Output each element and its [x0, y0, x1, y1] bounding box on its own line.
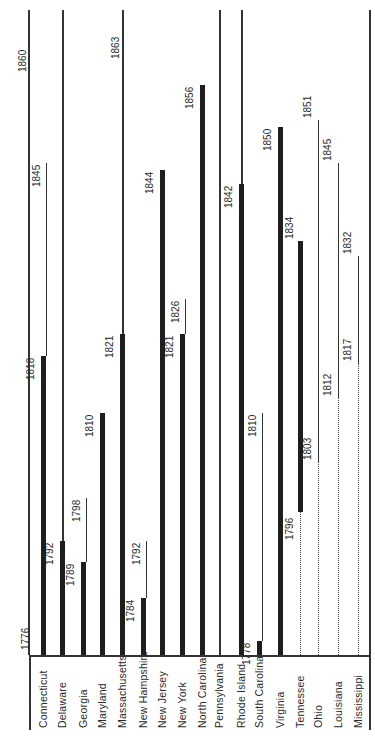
- thin-line: [122, 10, 124, 334]
- state-label: Ohio: [312, 705, 324, 728]
- state-label: Connecticut: [37, 670, 49, 728]
- thick-bar: [60, 541, 65, 655]
- state-label: New Hampshire: [137, 651, 149, 728]
- thin-line: [318, 120, 319, 462]
- thin-line: [219, 10, 221, 655]
- thin-line: [338, 163, 339, 398]
- thick-bar: [257, 641, 262, 655]
- year-label: 1842: [223, 186, 234, 208]
- thin-line: [46, 163, 47, 356]
- dotted-segment: [300, 512, 301, 655]
- year-label: 1812: [322, 374, 333, 396]
- state-label: South Carolina: [253, 656, 265, 728]
- dotted-segment: [358, 363, 359, 655]
- thick-bar: [180, 334, 185, 655]
- dotted-segment: [318, 462, 319, 655]
- baseline-1776: [29, 655, 371, 657]
- timeline-chart: 1776 1860 181818451792178917981810182118…: [0, 0, 375, 744]
- axis-label-end: 1860: [17, 50, 28, 72]
- thick-bar: [141, 598, 146, 655]
- thick-bar: [160, 170, 165, 655]
- state-label: Georgia: [77, 689, 89, 728]
- axis-label-start: 1776: [20, 628, 31, 650]
- state-label: Louisiana: [332, 681, 344, 728]
- state-label: Delaware: [56, 682, 68, 728]
- state-label: Pennsylvania: [213, 663, 225, 728]
- year-label: 1796: [284, 518, 295, 540]
- thick-bar: [81, 562, 86, 655]
- year-label: 1810: [247, 414, 258, 436]
- year-label: 1798: [71, 500, 82, 522]
- year-label: 1817: [342, 338, 353, 360]
- state-label: Massachusetts: [116, 655, 128, 728]
- thin-line: [62, 10, 64, 541]
- year-label: 1821: [164, 336, 175, 358]
- year-label: 1844: [144, 172, 155, 194]
- thick-bar: [298, 241, 303, 512]
- year-label: 1789: [65, 564, 76, 586]
- year-label: 1784: [125, 600, 136, 622]
- year-label: 1778: [241, 642, 252, 664]
- thin-line: [185, 299, 186, 335]
- state-label: Rhode Island: [235, 664, 247, 728]
- year-label: 1845: [31, 165, 42, 187]
- year-label: 1834: [284, 217, 295, 239]
- thick-bar: [100, 413, 105, 655]
- thick-bar: [41, 356, 46, 655]
- thin-line: [241, 10, 243, 184]
- state-label: Maryland: [96, 683, 108, 728]
- line-1860: [28, 10, 30, 655]
- state-label: New York: [176, 682, 188, 728]
- year-label: 1803: [302, 438, 313, 460]
- thick-bar: [278, 127, 283, 655]
- thick-bar: [239, 184, 244, 655]
- thin-line: [262, 413, 263, 641]
- year-label: 1792: [44, 543, 55, 565]
- thin-line: [358, 256, 359, 363]
- year-label: 1832: [342, 231, 353, 253]
- thick-bar: [200, 85, 205, 655]
- year-label: 1856: [184, 86, 195, 108]
- state-label: New Jersey: [156, 671, 168, 728]
- thin-line: [86, 498, 87, 562]
- state-label: North Carolina: [196, 658, 208, 729]
- year-label: 1845: [322, 139, 333, 161]
- thin-line: [146, 541, 147, 598]
- year-label: 1863: [110, 36, 121, 58]
- dotted-segment: [338, 398, 339, 655]
- year-label: 1792: [131, 543, 142, 565]
- left-axis: [29, 655, 31, 730]
- year-label: 1851: [302, 96, 313, 118]
- state-label: Tennessee: [294, 675, 306, 728]
- year-label: 1826: [170, 300, 181, 322]
- year-label: 1850: [262, 129, 273, 151]
- year-label: 1821: [104, 336, 115, 358]
- year-label: 1818: [25, 357, 36, 379]
- state-label: Virginia: [274, 692, 286, 728]
- year-label: 1810: [84, 414, 95, 436]
- state-label: Mississippi: [352, 675, 364, 728]
- right-frame: [369, 10, 371, 730]
